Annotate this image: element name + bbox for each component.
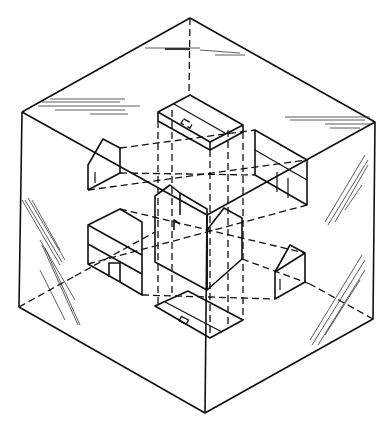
- right-profile-view: [207, 208, 242, 290]
- glass-cube: [19, 18, 375, 413]
- glass-box-figure: [0, 0, 390, 428]
- bottom-view: [155, 291, 243, 338]
- right-side-view: [255, 130, 307, 205]
- right-end-view: [275, 245, 305, 299]
- projection-lines: [75, 110, 310, 338]
- top-view: [158, 95, 243, 150]
- glass-reflection-hatching: [22, 48, 370, 345]
